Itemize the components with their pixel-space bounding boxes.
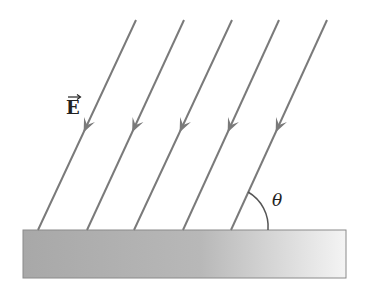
field-label: E bbox=[66, 97, 80, 118]
diagram-canvas: θ E bbox=[0, 0, 368, 290]
conducting-slab bbox=[23, 230, 346, 278]
angle-label: θ bbox=[272, 190, 282, 210]
field-lines bbox=[38, 20, 327, 230]
angle-arc bbox=[248, 192, 268, 230]
